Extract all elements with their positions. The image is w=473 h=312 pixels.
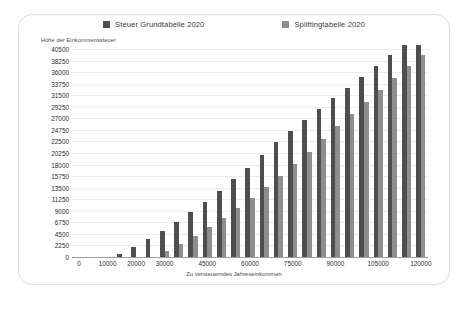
bar[interactable] bbox=[335, 126, 340, 257]
bar[interactable] bbox=[179, 244, 184, 257]
plot-area bbox=[72, 49, 428, 257]
y-tick-label: 22500 bbox=[51, 138, 69, 145]
y-tick-label: 18000 bbox=[51, 161, 69, 168]
y-tick-label: 4500 bbox=[55, 230, 69, 237]
x-tick-label: 10000 bbox=[99, 260, 117, 267]
bar-group bbox=[172, 49, 186, 257]
bar-group bbox=[328, 49, 342, 257]
bar-group bbox=[214, 49, 228, 257]
bar[interactable] bbox=[378, 90, 383, 257]
bar-group bbox=[200, 49, 214, 257]
x-tick-label: 60000 bbox=[241, 260, 259, 267]
bar-group bbox=[129, 49, 143, 257]
bar[interactable] bbox=[207, 227, 212, 257]
bar-group bbox=[286, 49, 300, 257]
bar[interactable] bbox=[193, 236, 198, 257]
bar-group bbox=[271, 49, 285, 257]
chart-card: Steuer Grundtabelle 2020 Splittingtabell… bbox=[18, 14, 450, 285]
y-tick-label: 27000 bbox=[51, 115, 69, 122]
bar[interactable] bbox=[321, 139, 326, 257]
bar-group bbox=[400, 49, 414, 257]
bar[interactable] bbox=[236, 208, 241, 257]
bar[interactable] bbox=[364, 102, 369, 257]
bar-group bbox=[143, 49, 157, 257]
y-tick-label: 20250 bbox=[51, 150, 69, 157]
y-tick-label: 29250 bbox=[51, 103, 69, 110]
bar-group bbox=[300, 49, 314, 257]
bar-group bbox=[86, 49, 100, 257]
bar-group bbox=[100, 49, 114, 257]
bar-series-container bbox=[72, 49, 428, 257]
x-tick-label: 30000 bbox=[156, 260, 174, 267]
y-tick-label: 15750 bbox=[51, 173, 69, 180]
y-tick-label: 31500 bbox=[51, 92, 69, 99]
y-tick-label: 33750 bbox=[51, 80, 69, 87]
bar-group bbox=[186, 49, 200, 257]
x-tick-label: 45000 bbox=[198, 260, 216, 267]
y-axis-ticks: 0225045006750900011250135001575018000202… bbox=[27, 49, 69, 257]
y-tick-label: 2250 bbox=[55, 242, 69, 249]
x-tick-label: 20000 bbox=[127, 260, 145, 267]
plot-wrapper: 0225045006750900011250135001575018000202… bbox=[19, 15, 449, 284]
bar-group bbox=[115, 49, 129, 257]
bar-group bbox=[257, 49, 271, 257]
bar[interactable] bbox=[264, 187, 269, 257]
bar[interactable] bbox=[278, 176, 283, 257]
y-tick-label: 36000 bbox=[51, 69, 69, 76]
x-tick-label: 0 bbox=[77, 260, 81, 267]
bar[interactable] bbox=[293, 164, 298, 257]
bar-group bbox=[157, 49, 171, 257]
bar[interactable] bbox=[407, 66, 412, 257]
bar-group bbox=[229, 49, 243, 257]
y-tick-label: 38250 bbox=[51, 57, 69, 64]
bar[interactable] bbox=[165, 251, 170, 257]
bar[interactable] bbox=[222, 218, 227, 257]
bar-group bbox=[371, 49, 385, 257]
bar-group bbox=[343, 49, 357, 257]
y-tick-label: 0 bbox=[65, 254, 69, 261]
bar[interactable] bbox=[421, 55, 426, 257]
bar-group bbox=[314, 49, 328, 257]
y-tick-label: 6750 bbox=[55, 219, 69, 226]
gridline bbox=[72, 257, 428, 258]
bar-group bbox=[385, 49, 399, 257]
bar[interactable] bbox=[146, 239, 151, 257]
x-axis-title: Zu versteuerndes Jahreseinkommen bbox=[19, 271, 449, 277]
y-tick-label: 11250 bbox=[52, 196, 69, 203]
x-tick-label: 75000 bbox=[284, 260, 302, 267]
bar[interactable] bbox=[117, 254, 122, 257]
bar[interactable] bbox=[307, 152, 312, 257]
bar[interactable] bbox=[350, 114, 355, 257]
x-tick-label: 90000 bbox=[327, 260, 345, 267]
bar-group bbox=[243, 49, 257, 257]
bar[interactable] bbox=[131, 247, 136, 257]
bar-group bbox=[414, 49, 428, 257]
x-tick-label: 105000 bbox=[367, 260, 388, 267]
bar-group bbox=[72, 49, 86, 257]
y-tick-label: 24750 bbox=[51, 126, 69, 133]
bar[interactable] bbox=[392, 78, 397, 257]
y-tick-label: 13500 bbox=[51, 184, 69, 191]
y-tick-label: 9000 bbox=[55, 207, 69, 214]
x-tick-label: 120000 bbox=[410, 260, 431, 267]
bar[interactable] bbox=[250, 198, 255, 257]
y-tick-label: 40500 bbox=[51, 46, 69, 53]
bar-group bbox=[357, 49, 371, 257]
